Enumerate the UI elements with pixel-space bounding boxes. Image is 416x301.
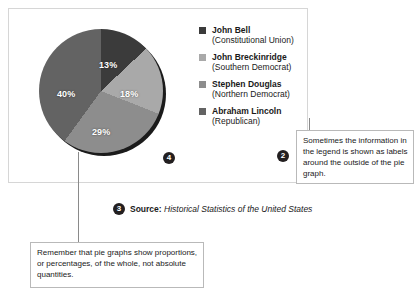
source-title: Historical Statistics of the United Stat… [164,204,312,214]
legend-item-name: John Breckinridge [212,52,303,62]
legend-item-john-bell: John Bell (Constitutional Union) [199,25,303,45]
source-label: Source: [130,204,162,214]
legend-item-name: Abraham Lincoln [212,106,303,116]
callout-box-proportions: Remember that pie graphs show proportion… [30,242,204,288]
legend-item-party: (Constitutional Union) [212,35,303,45]
legend-swatch-icon [199,54,206,61]
step-badge-4: 4 [163,152,175,164]
legend-item-abraham-lincoln: Abraham Lincoln (Republican) [199,106,303,126]
pie-slice-label: 40% [57,89,75,99]
legend-item-name: Stephen Douglas [212,79,303,89]
leader-line-pie-to-callout [78,152,79,242]
chart-legend: John Bell (Constitutional Union) John Br… [199,25,303,133]
legend-swatch-icon [199,108,206,115]
callout-box-legend-labels: Sometimes the information in the legend … [296,130,414,184]
legend-item-name: John Bell [212,25,303,35]
pie-slice-label: 13% [99,60,117,70]
legend-item-party: (Northern Democrat) [212,89,303,99]
legend-item-party: (Republican) [212,116,303,126]
pie-chart: 13% 18% 29% 40% [37,27,177,167]
legend-item-party: (Southern Democrat) [212,62,303,72]
legend-item-john-breckinridge: John Breckinridge (Southern Democrat) [199,52,303,72]
step-badge-3: 3 [113,203,125,215]
chart-panel: 13% 18% 29% 40% John Bell (Constitutiona… [8,8,308,183]
legend-swatch-icon [199,27,206,34]
step-badge-2: 2 [277,150,289,162]
pie-slice-label: 29% [92,127,110,137]
leader-line-legend-to-callout [309,118,310,130]
source-line: Source: Historical Statistics of the Uni… [130,203,312,215]
pie-slice-label: 18% [120,89,138,99]
legend-swatch-icon [199,81,206,88]
legend-item-stephen-douglas: Stephen Douglas (Northern Democrat) [199,79,303,99]
